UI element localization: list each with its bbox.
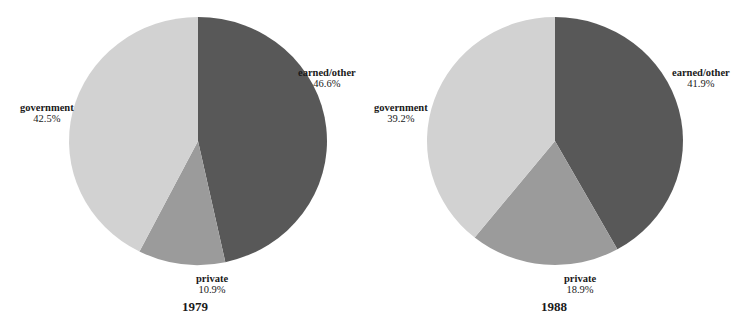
slice-label-earned-other: earned/other 46.6% [298,67,356,89]
chart-title-1988: 1988 [541,299,567,315]
chart-title-1979: 1979 [182,299,208,315]
pie-chart-1988: earned/other 41.9% private 18.9% governm… [374,0,748,328]
slice-label-private: private 18.9% [564,273,596,295]
pie-slice-earned-other [198,17,327,262]
slice-label-private: private 10.9% [196,273,228,295]
slice-label-earned-other: earned/other 41.9% [672,67,730,89]
slice-label-government: government 39.2% [374,102,428,124]
pie-1979 [0,0,374,328]
slice-label-government: government 42.5% [20,102,74,124]
pie-1988 [374,0,748,328]
pie-chart-1979: earned/other 46.6% private 10.9% governm… [0,0,374,328]
